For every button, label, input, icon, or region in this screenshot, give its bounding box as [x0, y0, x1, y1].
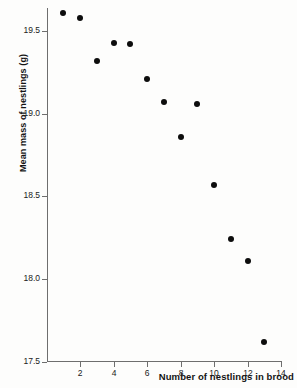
x-tick-mark: [248, 362, 249, 367]
data-point: [211, 182, 217, 188]
data-point: [77, 15, 83, 21]
x-tick-mark: [147, 362, 148, 367]
y-tick-label: 19.0: [12, 109, 40, 118]
data-point: [161, 99, 167, 105]
data-point: [111, 40, 117, 46]
data-point: [261, 339, 267, 345]
y-tick-label: 18.0: [12, 274, 40, 283]
data-point: [127, 41, 133, 47]
y-tick-label: 17.5: [12, 357, 40, 366]
y-tick-mark: [42, 114, 47, 115]
x-axis-line: [47, 361, 282, 362]
y-tick-label: 19.5: [12, 26, 40, 35]
data-point: [194, 101, 200, 107]
x-tick-mark: [80, 362, 81, 367]
y-tick-mark: [42, 279, 47, 280]
data-point: [178, 134, 184, 140]
data-point: [144, 76, 150, 82]
x-axis-label: Number of nestlings in brood: [0, 371, 294, 382]
data-point: [245, 258, 251, 264]
y-tick-label: 18.5: [12, 191, 40, 200]
plot-area: 17.518.018.519.019.5 2468101214: [0, 0, 297, 388]
data-point: [94, 58, 100, 64]
x-tick-mark: [114, 362, 115, 367]
y-tick-mark: [42, 31, 47, 32]
y-tick-mark: [42, 362, 47, 363]
x-tick-mark: [181, 362, 182, 367]
y-axis-line: [47, 8, 48, 362]
y-tick-mark: [42, 196, 47, 197]
scatter-plot-figure: Mean mass of nestlings (g) 17.518.018.51…: [0, 0, 297, 388]
x-tick-mark: [214, 362, 215, 367]
x-tick-mark: [281, 362, 282, 367]
data-point: [60, 10, 66, 16]
data-point: [228, 236, 234, 242]
